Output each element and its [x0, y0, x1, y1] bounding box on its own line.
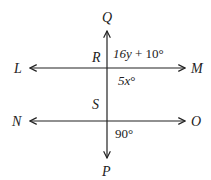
angle-label-90: 90° [115, 126, 133, 141]
label-q: Q [102, 10, 112, 25]
angle-label-16y-plus-10: 16y + 10° [113, 46, 164, 61]
label-s: S [92, 97, 99, 112]
angle-label-5x: 5x° [118, 73, 135, 88]
label-p: P [101, 164, 111, 179]
label-r: R [91, 50, 101, 65]
label-m: M [190, 61, 204, 76]
label-n: N [11, 114, 22, 129]
label-o: O [191, 114, 201, 129]
label-l: L [13, 61, 22, 76]
diagram-canvas: Q P L M N O R S 16y + 10° 5x° 90° [0, 0, 211, 180]
